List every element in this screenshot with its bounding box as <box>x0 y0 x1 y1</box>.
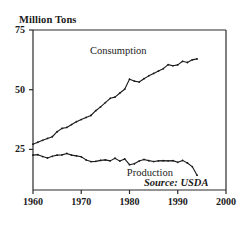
data-point <box>90 161 92 163</box>
data-point <box>143 78 145 80</box>
y-tick-label: 50 <box>0 85 25 95</box>
data-point <box>104 159 106 161</box>
data-point <box>71 154 73 156</box>
usda-line-chart: Million Tons 255075 19601970198019902000… <box>0 0 243 227</box>
data-point <box>42 156 44 158</box>
data-point <box>177 64 179 66</box>
x-tick-label: 1990 <box>161 197 195 207</box>
data-point <box>71 124 73 126</box>
data-point <box>182 159 184 161</box>
data-point <box>191 166 193 168</box>
x-tick-label: 1970 <box>64 197 98 207</box>
data-point <box>162 68 164 70</box>
data-point <box>85 159 87 161</box>
data-point <box>80 119 82 121</box>
data-point <box>66 127 68 129</box>
data-point <box>100 159 102 161</box>
data-point <box>143 159 145 161</box>
data-point <box>133 80 135 82</box>
series-label-consumption: Consumption <box>90 45 147 56</box>
data-point <box>148 160 150 162</box>
data-point <box>138 160 140 162</box>
data-point <box>56 131 58 133</box>
data-point <box>129 78 131 80</box>
data-point <box>47 157 49 159</box>
y-tick-label: 75 <box>0 25 25 35</box>
data-point <box>153 161 155 163</box>
x-tick-label: 2000 <box>209 197 243 207</box>
data-point <box>177 161 179 163</box>
data-point <box>47 138 49 140</box>
data-point <box>51 136 53 138</box>
data-point <box>76 121 78 123</box>
data-point <box>124 88 126 90</box>
data-point <box>196 174 198 176</box>
data-point <box>100 106 102 108</box>
data-point <box>37 141 39 143</box>
data-point <box>167 160 169 162</box>
data-point <box>124 158 126 160</box>
data-point <box>162 160 164 162</box>
data-point <box>172 160 174 162</box>
x-tick-label: 1980 <box>113 197 147 207</box>
data-point <box>114 157 116 159</box>
data-point <box>95 160 97 162</box>
data-point <box>109 97 111 99</box>
data-point <box>187 62 189 64</box>
data-point <box>148 75 150 77</box>
data-point <box>66 153 68 155</box>
data-point <box>196 58 198 60</box>
data-point <box>85 117 87 119</box>
data-point <box>119 160 121 162</box>
data-point <box>158 160 160 162</box>
x-tick-label: 1960 <box>16 197 50 207</box>
data-point <box>76 155 78 157</box>
data-point <box>119 92 121 94</box>
data-point <box>80 156 82 158</box>
data-point <box>153 73 155 75</box>
data-point <box>32 143 34 145</box>
data-point <box>129 164 131 166</box>
y-tick-label: 25 <box>0 144 25 154</box>
data-point <box>182 60 184 62</box>
source-note: Source: USDA <box>144 177 208 188</box>
data-point <box>32 154 34 156</box>
data-point <box>51 155 53 157</box>
data-point <box>158 70 160 72</box>
data-point <box>56 154 58 156</box>
data-point <box>104 102 106 104</box>
data-point <box>172 65 174 67</box>
y-axis-title: Million Tons <box>19 14 77 25</box>
data-point <box>109 160 111 162</box>
data-point <box>114 96 116 98</box>
data-point <box>187 162 189 164</box>
data-point <box>138 81 140 83</box>
plot-canvas <box>0 0 243 227</box>
data-point <box>61 154 63 156</box>
data-point <box>133 163 135 165</box>
data-point <box>95 110 97 112</box>
data-point <box>191 59 193 61</box>
data-point <box>42 139 44 141</box>
data-point <box>167 64 169 66</box>
data-point <box>37 154 39 156</box>
data-series-group <box>32 58 198 176</box>
data-point <box>90 115 92 117</box>
data-point <box>61 127 63 129</box>
